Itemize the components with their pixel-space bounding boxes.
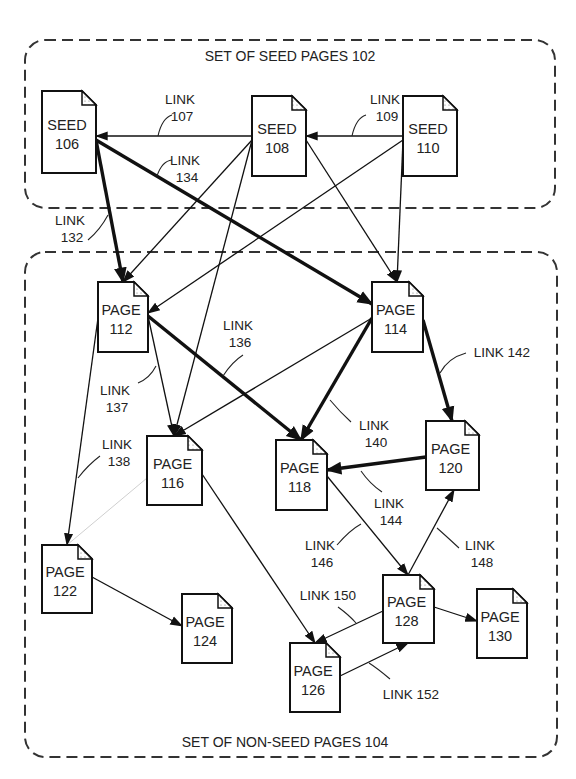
folded-corner-icon (292, 96, 306, 110)
link-148 (408, 490, 454, 575)
link-label-150: LINK 150 (300, 588, 356, 623)
folded-corner-icon (326, 643, 340, 657)
link-152 (340, 643, 408, 676)
link (67, 478, 147, 545)
page-id-label: 112 (109, 321, 132, 337)
page-id-label: 120 (438, 460, 462, 476)
leader-line (88, 215, 108, 240)
page-type-label: PAGE (376, 302, 416, 318)
page-type-label: PAGE (293, 663, 333, 679)
link-label-text: LINK 142 (474, 345, 530, 360)
folded-corner-icon (409, 282, 423, 296)
leader-line (223, 355, 243, 376)
link-label-text: LINK (55, 213, 85, 228)
link-label-number: 109 (376, 109, 399, 124)
page-type-label: SEED (257, 121, 297, 137)
link-label-text: LINK 152 (383, 687, 439, 702)
web-graph-diagram: SET OF SEED PAGES 102SET OF NON-SEED PAG… (0, 0, 576, 779)
link-label-number: 144 (380, 513, 403, 528)
page-node-128: PAGE128 (383, 575, 434, 643)
link-132 (96, 140, 123, 282)
page-type-label: PAGE (45, 564, 85, 580)
leader-line (437, 528, 459, 548)
page-type-label: SEED (408, 121, 448, 137)
page-type-label: PAGE (101, 302, 141, 318)
link-label-148: LINK148 (437, 528, 495, 570)
link-label-text: LINK 150 (300, 588, 356, 603)
page-node-112: PAGE112 (98, 282, 148, 352)
link-label-107: LINK107 (158, 92, 195, 136)
link-label-146: LINK146 (305, 524, 361, 570)
link-label-144: LINK144 (361, 471, 404, 528)
page-node-118: PAGE118 (276, 440, 327, 510)
leader-line (337, 524, 361, 545)
link-142 (423, 320, 452, 421)
link-label-text: LINK (102, 437, 132, 452)
page-type-label: PAGE (480, 609, 520, 625)
folded-corner-icon (465, 421, 479, 435)
link-label-number: 140 (365, 435, 388, 450)
page-node-116: PAGE116 (147, 436, 202, 505)
page-node-124: PAGE124 (182, 594, 232, 663)
link-144 (327, 457, 426, 470)
leader-line (369, 663, 390, 679)
link-label-142: LINK 142 (440, 345, 530, 373)
leader-line (352, 115, 366, 136)
page-id-label: 126 (301, 682, 325, 698)
link-138 (67, 318, 98, 545)
page-id-label: 122 (53, 583, 77, 599)
folded-corner-icon (82, 91, 96, 105)
page-node-108: SEED108 (252, 96, 306, 176)
leader-line (138, 366, 156, 383)
link-label-text: LINK (370, 92, 400, 107)
link-label-text: LINK (223, 318, 253, 333)
link-label-text: LINK (359, 418, 389, 433)
link (434, 607, 477, 621)
leader-line (330, 400, 351, 422)
page-id-label: 110 (416, 140, 439, 156)
page-type-label: PAGE (280, 460, 320, 476)
leader-line (361, 471, 382, 492)
link-label-text: LINK (465, 538, 495, 553)
page-type-label: PAGE (153, 456, 193, 472)
link-label-132: LINK132 (55, 213, 108, 245)
page-node-110: SEED110 (403, 96, 457, 176)
link-label-text: LINK (100, 383, 130, 398)
page-node-114: PAGE114 (372, 282, 423, 352)
page-id-label: 116 (161, 475, 184, 491)
page-node-106: SEED106 (42, 91, 96, 173)
page-id-label: 114 (384, 321, 407, 337)
page-type-label: PAGE (431, 441, 471, 457)
link-label-number: 138 (108, 454, 131, 469)
page-id-label: 128 (394, 613, 418, 629)
link-label-109: LINK109 (352, 92, 400, 136)
link-label-140: LINK140 (330, 400, 389, 450)
page-id-label: 118 (288, 479, 311, 495)
link-label-text: LINK (170, 153, 200, 168)
link-label-138: LINK138 (78, 437, 132, 478)
link-label-number: 148 (471, 555, 494, 570)
folded-corner-icon (134, 282, 148, 296)
link-label-137: LINK137 (100, 366, 156, 415)
link-label-text: LINK (374, 496, 404, 511)
link (306, 140, 397, 282)
link-label-number: 132 (61, 230, 84, 245)
page-node-130: PAGE130 (477, 589, 527, 658)
page-id-label: 130 (488, 628, 512, 644)
leader-line (78, 456, 100, 478)
folded-corner-icon (78, 545, 92, 559)
link-label-152: LINK 152 (369, 663, 439, 702)
link-label-number: 134 (176, 170, 199, 185)
link-134 (96, 140, 372, 304)
page-id-label: 106 (55, 136, 79, 152)
page-type-label: SEED (47, 117, 87, 133)
leader-line (338, 607, 356, 623)
folded-corner-icon (443, 96, 457, 110)
page-id-label: 108 (265, 140, 289, 156)
link-label-text: LINK (165, 92, 195, 107)
link (92, 577, 182, 626)
link-label-number: 107 (171, 109, 194, 124)
link-label-text: LINK (305, 538, 335, 553)
folded-corner-icon (420, 575, 434, 589)
diagram-svg: SET OF SEED PAGES 102SET OF NON-SEED PAG… (0, 0, 576, 779)
